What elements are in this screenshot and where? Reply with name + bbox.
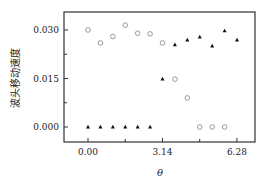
circle-marker bbox=[210, 125, 215, 130]
triangle-marker bbox=[198, 35, 202, 39]
triangle-marker bbox=[111, 125, 115, 129]
circle-marker bbox=[222, 125, 227, 130]
triangle-marker bbox=[98, 125, 102, 129]
triangle-marker bbox=[235, 38, 239, 42]
circle-marker bbox=[111, 34, 116, 39]
circle-marker bbox=[160, 41, 165, 46]
circle-marker bbox=[173, 77, 178, 82]
circle-marker bbox=[148, 32, 153, 37]
y-axis-title: 波头移动速度 bbox=[9, 48, 21, 108]
data-points bbox=[86, 23, 239, 129]
circle-marker bbox=[86, 28, 91, 33]
scatter-chart: 0.003.146.280.0000.0150.030 θ 波头移动速度 bbox=[0, 0, 266, 187]
axis-ticks: 0.003.146.280.0000.0150.030 bbox=[33, 25, 247, 157]
plot-frame bbox=[64, 12, 255, 142]
triangle-marker bbox=[185, 38, 189, 42]
circle-marker bbox=[98, 41, 103, 46]
triangle-marker bbox=[161, 77, 165, 81]
x-axis-title: θ bbox=[157, 167, 163, 178]
y-tick-label: 0.000 bbox=[33, 122, 59, 132]
triangle-marker bbox=[136, 125, 140, 129]
triangle-marker bbox=[86, 125, 90, 129]
y-tick-label: 0.030 bbox=[33, 25, 59, 35]
triangle-marker bbox=[148, 125, 152, 129]
triangle-marker bbox=[173, 43, 177, 47]
triangle-marker bbox=[223, 29, 227, 33]
plot-border bbox=[64, 12, 255, 142]
triangle-marker bbox=[123, 125, 127, 129]
circle-marker bbox=[185, 96, 190, 101]
y-tick-label: 0.015 bbox=[33, 74, 59, 84]
x-tick-label: 0.00 bbox=[78, 147, 98, 157]
x-tick-label: 3.14 bbox=[152, 147, 172, 157]
circle-marker bbox=[197, 125, 202, 130]
circle-marker bbox=[123, 23, 128, 28]
x-tick-label: 6.28 bbox=[227, 147, 247, 157]
circle-marker bbox=[135, 31, 140, 36]
triangle-marker bbox=[210, 44, 214, 48]
